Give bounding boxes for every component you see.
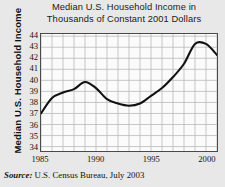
y-tick-label: 41 (22, 63, 38, 73)
y-tick-label: 34 (22, 142, 38, 152)
source-note: Source: U.S. Census Bureau, July 2003 (4, 170, 144, 180)
x-tick-label: 1990 (79, 154, 113, 164)
y-tick-label: 37 (22, 108, 38, 118)
source-label: Source: (4, 170, 32, 180)
x-tick-label: 2000 (190, 154, 224, 164)
chart-title-line-2: Thousands of Constant 2001 Dollars (26, 13, 222, 25)
chart-title: Median U.S. Household Income in Thousand… (26, 1, 222, 25)
plot-area (40, 33, 218, 152)
chart-figure: Median U.S. Household Income in Thousand… (0, 0, 225, 187)
source-text: U.S. Census Bureau, July 2003 (35, 170, 145, 180)
x-tick-label: 1985 (23, 154, 57, 164)
y-tick-label: 44 (22, 30, 38, 40)
x-tick-label: 1995 (134, 154, 168, 164)
y-tick-label: 40 (22, 75, 38, 85)
y-tick-label: 35 (22, 131, 38, 141)
chart-title-line-1: Median U.S. Household Income in (26, 1, 222, 13)
data-line-series (41, 34, 217, 151)
y-tick-label: 42 (22, 52, 38, 62)
y-tick-label: 43 (22, 41, 38, 51)
y-tick-label: 36 (22, 120, 38, 130)
y-tick-label: 39 (22, 86, 38, 96)
y-axis-tick-labels: 3435363738394041424344 (20, 33, 38, 152)
x-axis-tick-labels: 1985199019952000 (40, 154, 218, 167)
y-tick-label: 38 (22, 97, 38, 107)
